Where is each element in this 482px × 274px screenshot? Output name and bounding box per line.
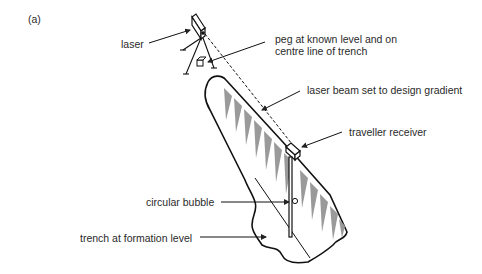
label-laser: laser	[121, 38, 144, 50]
trench-wall-shading	[224, 88, 345, 240]
label-laser-beam: laser beam set to design gradient	[307, 84, 462, 96]
label-peg-line1: peg at known level and on	[275, 33, 397, 45]
label-trench: trench at formation level	[80, 232, 192, 244]
label-peg-line2: centre line of trench	[275, 45, 397, 57]
circular-bubble-icon	[292, 198, 297, 203]
label-peg: peg at known level and on centre line of…	[275, 33, 397, 57]
peg-icon	[197, 57, 206, 66]
tripod-icon	[180, 38, 217, 74]
label-circular-bubble: circular bubble	[146, 196, 214, 208]
panel-label: (a)	[28, 13, 41, 25]
laser-icon	[192, 14, 205, 39]
label-traveller-receiver: traveller receiver	[349, 126, 427, 138]
